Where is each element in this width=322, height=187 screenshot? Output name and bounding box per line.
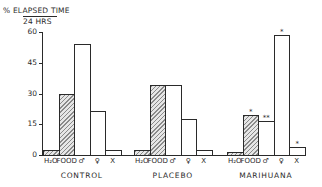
y-axis-label-numerator: % ELAPSED TIME bbox=[3, 6, 70, 15]
y-tick-label: 15 bbox=[17, 119, 37, 128]
y-tick-label: 60 bbox=[17, 27, 37, 36]
bar-placebo- bbox=[181, 119, 198, 155]
y-tick-mark bbox=[39, 63, 42, 64]
significance-marker: * bbox=[274, 29, 291, 36]
y-tick-mark bbox=[39, 124, 42, 125]
bar-marihuana-food bbox=[243, 115, 260, 155]
bar-control-h2o bbox=[43, 150, 60, 155]
category-label: X bbox=[103, 157, 123, 165]
y-tick-label: 30 bbox=[17, 89, 37, 98]
bar-placebo-food bbox=[150, 85, 167, 155]
group-label-marihuana: MARIHUANA bbox=[227, 171, 305, 180]
group-label-placebo: PLACEBO bbox=[134, 171, 212, 180]
bar-placebo- bbox=[165, 85, 182, 155]
significance-marker: ** bbox=[258, 115, 275, 122]
bar-placebo-h2o bbox=[134, 150, 151, 155]
bar-control-x bbox=[105, 150, 122, 155]
bar-control-food bbox=[59, 94, 76, 156]
bar-marihuana-h2o bbox=[227, 152, 244, 155]
bar-marihuana- bbox=[274, 35, 291, 155]
y-axis-label-denominator: 24 HRS bbox=[23, 17, 52, 26]
y-tick-mark bbox=[39, 32, 42, 33]
category-label: X bbox=[287, 157, 307, 165]
bar-marihuana-x bbox=[289, 147, 306, 155]
y-axis bbox=[42, 32, 43, 156]
y-tick-label: 0 bbox=[17, 150, 37, 159]
y-tick-label: 45 bbox=[17, 58, 37, 67]
y-tick-mark bbox=[39, 94, 42, 95]
x-axis-baseline bbox=[42, 155, 306, 156]
category-label: X bbox=[194, 157, 214, 165]
bar-chart: % ELAPSED TIME 24 HRS 015304560 H₂OFOOD♂… bbox=[0, 0, 322, 187]
bar-control- bbox=[90, 111, 107, 155]
group-label-control: CONTROL bbox=[43, 171, 121, 180]
bar-control- bbox=[74, 44, 91, 155]
bar-marihuana- bbox=[258, 121, 275, 155]
y-tick-mark bbox=[39, 155, 42, 156]
bar-placebo-x bbox=[196, 150, 213, 155]
significance-marker: * bbox=[289, 141, 306, 148]
significance-marker: * bbox=[243, 109, 260, 116]
